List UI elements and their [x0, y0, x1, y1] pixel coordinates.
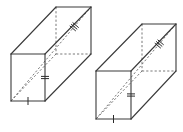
hidden-edge	[11, 54, 56, 101]
edge	[11, 7, 56, 54]
hidden-edge	[96, 71, 142, 119]
edge	[96, 24, 142, 71]
edge	[131, 71, 176, 119]
prism-right	[96, 24, 176, 123]
prism-left	[11, 7, 91, 105]
edge	[45, 7, 91, 54]
edge	[45, 54, 91, 101]
prism-diagram	[0, 0, 183, 132]
edge	[131, 24, 176, 71]
